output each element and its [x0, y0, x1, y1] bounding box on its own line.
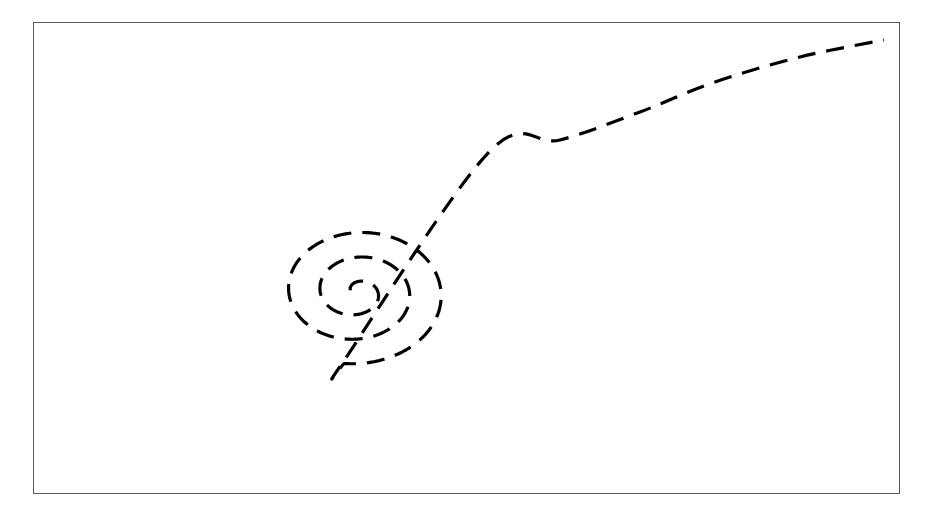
- plot-frame: [33, 22, 900, 494]
- figure-root: [0, 0, 926, 522]
